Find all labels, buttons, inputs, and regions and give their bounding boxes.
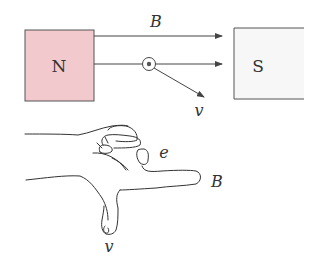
left-hand-rule-diagram: N S B v e B [0,0,324,269]
hand-icon [25,125,201,234]
index-finger-label-b: B [210,172,223,191]
south-label: S [252,56,264,76]
south-magnet: S [234,28,304,99]
velocity-arrow [154,68,204,97]
electron-label-e: e [159,143,168,162]
north-label: N [52,56,67,76]
north-magnet: N [25,30,94,101]
velocity-label-v: v [194,101,203,120]
thumb-label-v: v [104,237,113,256]
field-label-b: B [149,12,162,31]
charge-out-of-page-icon [143,58,156,71]
